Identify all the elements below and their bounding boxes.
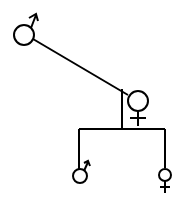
marriage-line — [33, 39, 128, 95]
family-tree-diagram — [0, 0, 182, 202]
son-male-icon — [73, 161, 90, 183]
mother-female-icon — [128, 91, 148, 126]
daughter-female-icon — [159, 169, 171, 193]
